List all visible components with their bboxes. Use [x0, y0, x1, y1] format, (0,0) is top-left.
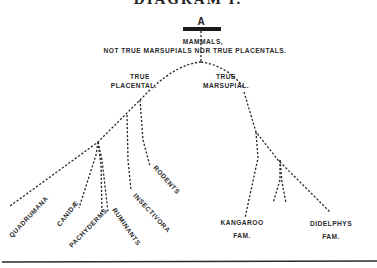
- leaf-didelphys-line1: DIDELPHYS: [310, 220, 352, 227]
- marsupial-fork-left-line: [273, 160, 280, 203]
- placental-insectivora-line: [127, 115, 131, 190]
- marsupial-label-line2: MARSUPIAL.: [203, 82, 249, 89]
- placental-rodents-line: [140, 100, 150, 166]
- leaf-ruminants: RUMINANTS: [111, 207, 142, 247]
- leaf-canidae: CANIDÆ: [55, 199, 79, 227]
- root-label-line1: MAMMALS,: [183, 38, 223, 46]
- leaf-kangaroo-line1: KANGAROO: [220, 219, 263, 226]
- phylogeny-diagram: DIAGRAM I. A MAMMALS, NOT TRUE MARSUPIAL…: [0, 0, 377, 268]
- leaf-kangaroo-line2: FAM.: [233, 232, 251, 239]
- marsupial-fork-right-line: [280, 160, 286, 203]
- placental-arch-line: [152, 62, 201, 88]
- placental-label-line2: PLACENTAL.: [111, 82, 157, 89]
- root-label-line2: NOT TRUE MARSUPIALS NOR TRUE PLACENTALS.: [104, 47, 287, 54]
- leaf-insectivora: INSECTIVORA: [132, 192, 172, 234]
- bottom-rule: [2, 261, 377, 262]
- leaf-rodents: RODENTS: [152, 164, 181, 195]
- marsupial-label-line1: TRUE: [216, 73, 236, 80]
- root-node-letter: A: [197, 16, 204, 27]
- placental-ruminants-line: [98, 142, 108, 212]
- diagram-title: DIAGRAM I.: [134, 0, 242, 7]
- leaf-didelphys-line2: FAM.: [322, 233, 340, 240]
- marsupial-kangaroo-line: [245, 132, 258, 218]
- leaf-quadrumana: QUADRUMANA: [8, 195, 50, 240]
- placental-pachyderms-line: [98, 142, 102, 212]
- placental-canidae-line: [79, 142, 98, 208]
- root-node-bar: [183, 27, 221, 31]
- leaf-pachyderms: PACHYDERMS: [68, 207, 109, 249]
- placental-label-line1: TRUE: [130, 73, 150, 80]
- placental-main-line: [10, 90, 150, 206]
